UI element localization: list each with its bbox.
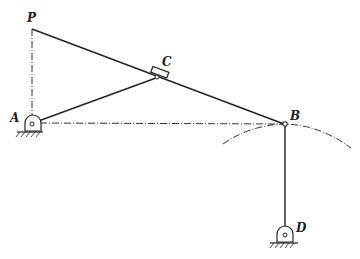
label-C: C <box>162 55 172 69</box>
link-AC <box>33 78 156 123</box>
construction-line-AB <box>40 123 282 124</box>
label-A: A <box>9 111 19 125</box>
mechanism-diagram: P A C B D <box>0 0 360 259</box>
pivot-support-D <box>270 226 298 248</box>
joint-C <box>155 75 159 79</box>
label-B: B <box>289 109 300 123</box>
joint-B <box>283 122 287 126</box>
label-P: P <box>26 11 37 25</box>
arc-through-B <box>223 124 351 148</box>
label-D: D <box>295 221 307 235</box>
pivot-support-A <box>16 115 43 137</box>
